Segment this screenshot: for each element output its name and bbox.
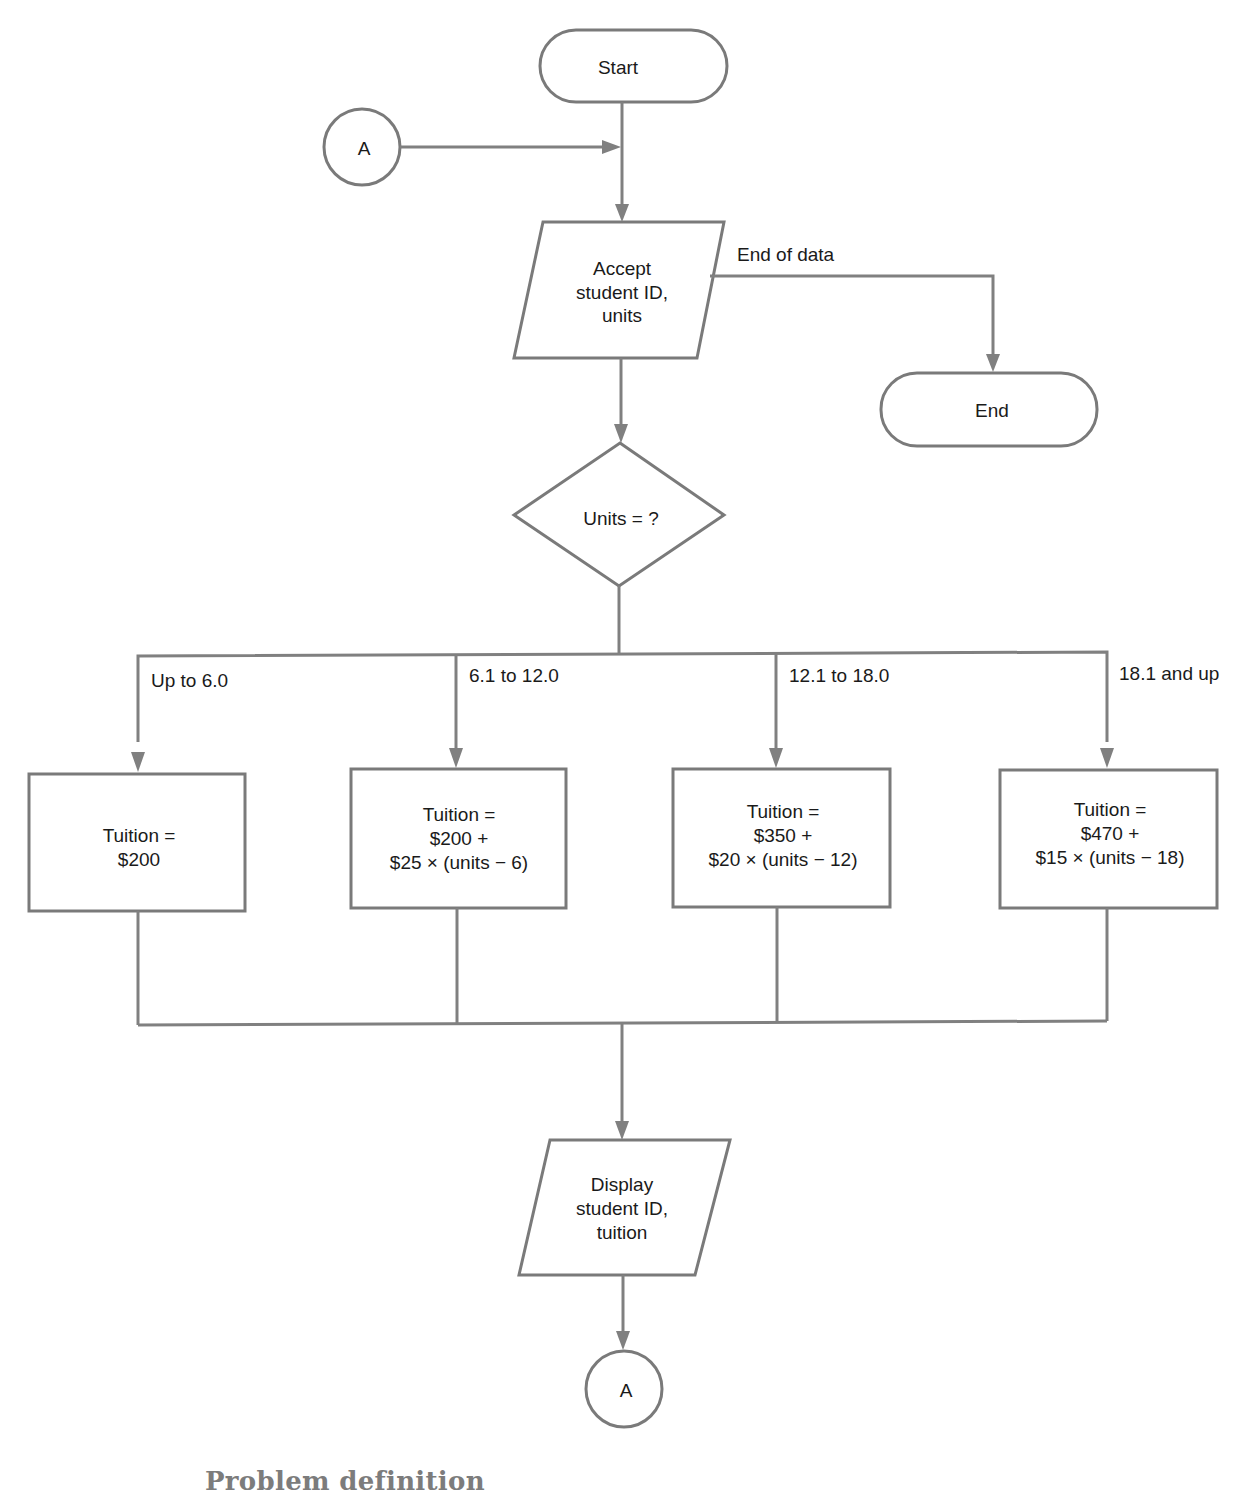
arrow-down-icon <box>614 424 628 443</box>
branch-bus-line <box>138 652 1107 742</box>
section-heading: Problem definition <box>205 1466 485 1496</box>
arrow-down-icon <box>449 748 463 768</box>
process-text: $350 + <box>754 825 813 846</box>
branch-condition-3: 12.1 to 18.0 <box>789 665 889 686</box>
end-terminal: End <box>881 373 1097 446</box>
output-line-2: student ID, <box>576 1198 668 1219</box>
process-box-18-and-up: Tuition = $470 + $15 × (units − 18) <box>1000 770 1217 908</box>
flowchart-canvas: Start A Accept student ID, units End of … <box>0 0 1244 1498</box>
process-text: $200 <box>118 849 160 870</box>
process-text: $470 + <box>1081 823 1140 844</box>
arrow-down-icon <box>615 1121 629 1140</box>
start-label: Start <box>598 57 639 78</box>
input-line-1: Accept <box>593 258 652 279</box>
start-terminal: Start <box>540 30 727 102</box>
arrow-right-icon <box>602 140 621 154</box>
output-line-3: tuition <box>597 1222 648 1243</box>
process-text: $200 + <box>430 828 489 849</box>
output-line-1: Display <box>591 1174 654 1195</box>
branch-condition-2: 6.1 to 12.0 <box>469 665 559 686</box>
branch-condition-1: Up to 6.0 <box>151 670 228 691</box>
connector-a-label: A <box>358 138 371 159</box>
process-text: Tuition = <box>423 804 496 825</box>
input-line-2: student ID, <box>576 282 668 303</box>
end-of-data-label: End of data <box>737 244 835 265</box>
process-text: $20 × (units − 12) <box>709 849 858 870</box>
arrow-down-icon <box>986 354 1000 372</box>
process-text: Tuition = <box>747 801 820 822</box>
arrow-down-icon <box>131 752 145 772</box>
output-parallelogram: Display student ID, tuition <box>519 1140 730 1275</box>
end-label: End <box>975 400 1009 421</box>
arrow-down-icon <box>1100 748 1114 768</box>
process-box-6-to-12: Tuition = $200 + $25 × (units − 6) <box>351 769 566 908</box>
process-text: Tuition = <box>103 825 176 846</box>
process-text: $25 × (units − 6) <box>390 852 528 873</box>
connector-a-entry: A <box>324 109 400 185</box>
process-box-12-to-18: Tuition = $350 + $20 × (units − 12) <box>673 769 890 907</box>
process-text: $15 × (units − 18) <box>1036 847 1185 868</box>
process-box-up-to-6: Tuition = $200 <box>29 774 245 911</box>
arrow-down-icon <box>769 748 783 768</box>
flow-line <box>710 276 993 358</box>
arrow-down-icon <box>616 1331 630 1350</box>
connector-a-label: A <box>620 1380 633 1401</box>
input-parallelogram: Accept student ID, units <box>514 222 724 358</box>
connector-a-exit: A <box>586 1351 662 1427</box>
decision-label: Units = ? <box>583 508 659 529</box>
process-text: Tuition = <box>1074 799 1147 820</box>
input-line-3: units <box>602 305 642 326</box>
decision-diamond: Units = ? <box>514 443 724 586</box>
arrow-down-icon <box>615 204 629 222</box>
branch-condition-4: 18.1 and up <box>1119 663 1219 684</box>
